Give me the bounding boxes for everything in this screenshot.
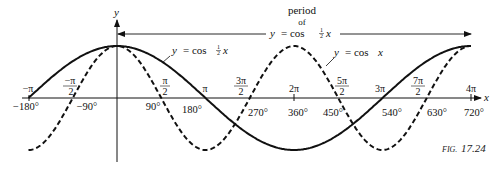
dashed-label-leader <box>326 58 334 66</box>
svg-text:450°: 450° <box>323 107 343 118</box>
x-axis-label: x <box>483 91 489 103</box>
svg-text:−90°: −90° <box>77 101 98 112</box>
svg-text:π: π <box>202 83 207 94</box>
svg-text:x: x <box>377 46 383 58</box>
svg-text:2: 2 <box>416 86 421 97</box>
svg-text:2: 2 <box>163 86 168 97</box>
figure-label: FIG. 17.24 <box>441 142 486 154</box>
svg-text:2: 2 <box>69 86 74 97</box>
svg-text:360°: 360° <box>288 107 308 118</box>
svg-text:7π: 7π <box>413 75 423 86</box>
svg-text:2: 2 <box>239 86 244 97</box>
svg-text:3π: 3π <box>236 75 246 86</box>
svg-text:FIG.: FIG. <box>441 145 457 154</box>
period-label-line2: of <box>298 17 306 27</box>
svg-text:720°: 720° <box>464 107 484 118</box>
svg-text:y: y <box>333 46 339 58</box>
svg-text:x: x <box>325 27 331 39</box>
svg-text:= cos: = cos <box>183 44 207 56</box>
y-axis-label: y <box>113 6 119 18</box>
svg-text:3π: 3π <box>375 83 385 94</box>
svg-text:−180°: −180° <box>13 101 39 112</box>
svg-text:2π: 2π <box>289 83 299 94</box>
svg-text:y: y <box>171 44 177 56</box>
svg-text:270°: 270° <box>248 107 268 118</box>
dashed-curve-label: y = cos x <box>333 46 383 58</box>
svg-text:x: x <box>222 44 228 56</box>
x-tick-labels-degrees: −180° −90° 90° 180° 270° 360° 450° 540° … <box>13 101 484 118</box>
svg-text:= cos: = cos <box>281 27 305 39</box>
solid-curve-label: y = cos 1 2 x <box>171 44 228 56</box>
svg-text:2: 2 <box>320 33 323 39</box>
svg-text:2: 2 <box>340 86 345 97</box>
cosine-graph: x y period of y = cos 1 2 x y = cos 1 2 … <box>0 0 504 169</box>
svg-text:= cos: = cos <box>345 46 369 58</box>
svg-text:180°: 180° <box>182 104 202 115</box>
svg-text:5π: 5π <box>337 75 347 86</box>
x-tick-labels-radians: −π −π 2 π 2 π 3π 2 2π 5π 2 3π 7π 2 4π <box>23 75 476 97</box>
svg-text:90°: 90° <box>146 101 161 112</box>
svg-text:−π: −π <box>65 75 76 86</box>
period-label-line1: period <box>288 4 317 16</box>
svg-text:y: y <box>269 27 275 39</box>
svg-text:4π: 4π <box>466 83 476 94</box>
solid-label-leader <box>162 56 170 63</box>
svg-text:2: 2 <box>217 50 220 56</box>
svg-text:π: π <box>162 75 167 86</box>
svg-text:540°: 540° <box>382 107 402 118</box>
svg-text:17.24: 17.24 <box>461 142 486 154</box>
svg-text:−π: −π <box>23 83 34 94</box>
svg-text:630°: 630° <box>427 107 447 118</box>
